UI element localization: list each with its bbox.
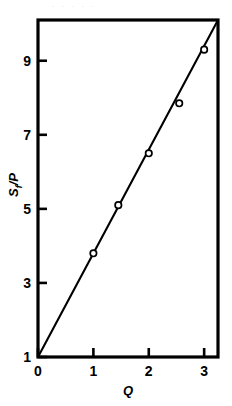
y-tick-label: 3	[23, 275, 31, 291]
x-axis-title: Q	[123, 383, 133, 398]
data-point-marker	[90, 250, 96, 256]
y-tick-label: 7	[23, 127, 31, 143]
x-axis-tick-labels: 0123	[34, 363, 208, 379]
x-tick-label: 1	[89, 363, 97, 379]
x-tick-label: 0	[34, 363, 42, 379]
y-tick-label: 5	[23, 201, 31, 217]
y-axis-title: Sf/P	[6, 173, 24, 197]
svg-text:Sf/P: Sf/P	[6, 173, 24, 197]
chart-figure: 13579 0123 Q Sf/P	[0, 0, 232, 406]
x-tick-label: 3	[200, 363, 208, 379]
data-point-marker	[201, 46, 207, 52]
chart-canvas: 13579 0123 Q Sf/P	[0, 0, 232, 406]
data-point-marker	[146, 150, 152, 156]
y-axis-title-tail: /P	[6, 173, 21, 187]
y-tick-label: 9	[23, 53, 31, 69]
y-axis-tick-labels: 13579	[23, 53, 31, 365]
x-tick-label: 2	[145, 363, 153, 379]
y-axis-title-base: S	[6, 188, 21, 197]
y-tick-label: 1	[23, 349, 31, 365]
data-point-marker	[115, 202, 121, 208]
data-point-marker	[176, 100, 182, 106]
